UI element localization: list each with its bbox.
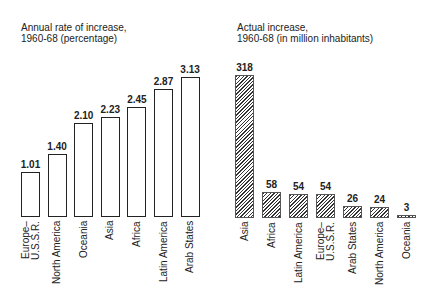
- left-category-label: Asia: [105, 221, 115, 240]
- right-value-label: 54: [284, 181, 314, 192]
- right-bar: [235, 75, 254, 218]
- left-category-label: Arab States: [185, 221, 195, 273]
- right-category-label: Latin America: [294, 222, 304, 283]
- left-value-label: 2.45: [122, 94, 152, 105]
- left-bar: [181, 77, 200, 217]
- left-title-line-2: 1960-68 (percentage): [21, 33, 127, 44]
- left-category-label: Latin America: [159, 221, 169, 282]
- right-category-label: Oceania: [402, 222, 412, 259]
- right-category-label: Europe– U.S.S.R.: [316, 222, 336, 261]
- right-bar: [262, 192, 281, 218]
- right-chart-title: Actual increase, 1960-68 (in million inh…: [237, 22, 373, 44]
- right-category-label: Asia: [240, 222, 250, 241]
- right-bar: [289, 194, 308, 218]
- right-title-line-2: 1960-68 (in million inhabitants): [237, 33, 373, 44]
- right-category-label: North America: [375, 222, 385, 285]
- right-bar: [397, 215, 416, 218]
- right-category-label: Arab States: [348, 222, 358, 274]
- left-value-label: 3.13: [175, 64, 205, 75]
- left-chart-title: Annual rate of increase, 1960-68 (percen…: [21, 22, 127, 44]
- left-category-label: Oceania: [79, 221, 89, 258]
- right-value-label: 318: [230, 62, 260, 73]
- right-value-label: 54: [311, 181, 341, 192]
- left-value-label: 2.23: [95, 104, 125, 115]
- right-category-label: Africa: [267, 222, 277, 248]
- left-bar: [127, 107, 146, 217]
- right-value-label: 24: [365, 194, 395, 205]
- left-bar: [154, 89, 173, 217]
- left-category-label: Africa: [132, 221, 142, 247]
- right-value-label: 3: [392, 202, 422, 213]
- left-category-label: North America: [52, 221, 62, 284]
- left-title-line-1: Annual rate of increase,: [21, 22, 127, 33]
- left-bar: [21, 172, 40, 217]
- left-category-label: Europe– U.S.S.R.: [21, 221, 41, 260]
- left-value-label: 1.01: [16, 159, 46, 170]
- left-bar: [74, 123, 93, 217]
- right-title-line-1: Actual increase,: [237, 22, 373, 33]
- left-value-label: 2.87: [149, 76, 179, 87]
- right-bar: [316, 194, 335, 218]
- right-bar: [370, 207, 389, 218]
- left-bar: [48, 154, 67, 217]
- left-bar: [101, 117, 120, 217]
- right-value-label: 58: [257, 179, 287, 190]
- left-value-label: 1.40: [42, 141, 72, 152]
- right-bar: [343, 206, 362, 218]
- left-value-label: 2.10: [69, 110, 99, 121]
- right-value-label: 26: [338, 193, 368, 204]
